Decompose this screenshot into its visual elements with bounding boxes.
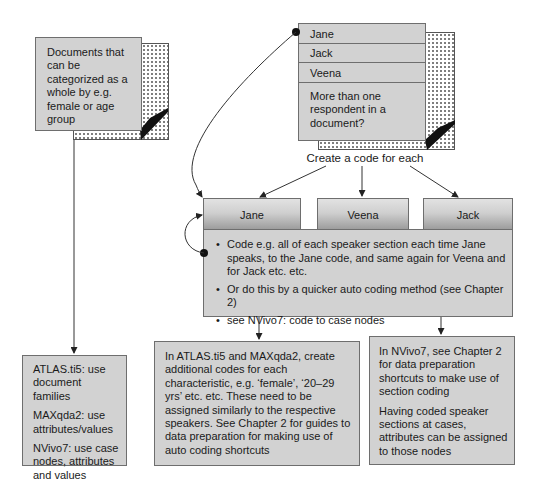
- respondent-row-jane: Jane: [299, 24, 425, 44]
- respondent-row-jack: Jack: [299, 44, 425, 63]
- atlas-option: ATLAS.ti5: use document families: [33, 363, 120, 403]
- software-options-box: ATLAS.ti5: use document families MAXqda2…: [22, 355, 127, 466]
- code-tab-veena: Veena: [317, 198, 409, 230]
- arrow-self-loop: [185, 215, 204, 253]
- nvivo-box: In NVivo7, see Chapter 2 for data prepar…: [369, 336, 515, 465]
- arrow-jane-curve: [192, 32, 296, 197]
- code-tab-jane: Jane: [203, 198, 301, 230]
- left-document-text: Documents that can be categorized as a w…: [47, 46, 128, 125]
- bullet-item: Code e.g. all of each speaker section ea…: [206, 238, 506, 279]
- arrow-to-jack-tab: [410, 166, 458, 197]
- atlas-maxqda-box: In ATLAS.ti5 and MAXqda2, create additio…: [154, 341, 360, 466]
- left-document-box: Documents that can be categorized as a w…: [35, 37, 142, 131]
- atlas-maxqda-text: In ATLAS.ti5 and MAXqda2, create additio…: [165, 350, 350, 456]
- code-tab-jack: Jack: [423, 198, 513, 230]
- respondent-question: More than one respondent in a document?: [299, 83, 425, 130]
- multi-respondent-document: Jane Jack Veena More than one respondent…: [298, 23, 426, 141]
- arrow-to-jane-tab: [260, 166, 326, 197]
- nvivo-paragraph-2: Having coded speaker sections at cases, …: [379, 405, 508, 459]
- nvivo-paragraph-1: In NVivo7, see Chapter 2 for data prepar…: [379, 345, 508, 399]
- speaker-coding-bullets: Code e.g. all of each speaker section ea…: [206, 238, 506, 327]
- create-code-label: Create a code for each: [300, 152, 430, 164]
- speaker-coding-box: Code e.g. all of each speaker section ea…: [203, 229, 513, 317]
- maxqda-option: MAXqda2: use attributes/values: [33, 409, 120, 436]
- nvivo-option: NVivo7: use case nodes, attributes and v…: [33, 442, 120, 482]
- bullet-item: see NVivo7: code to case nodes: [206, 314, 506, 328]
- respondent-row-veena: Veena: [299, 63, 425, 83]
- bullet-item: Or do this by a quicker auto coding meth…: [206, 283, 506, 310]
